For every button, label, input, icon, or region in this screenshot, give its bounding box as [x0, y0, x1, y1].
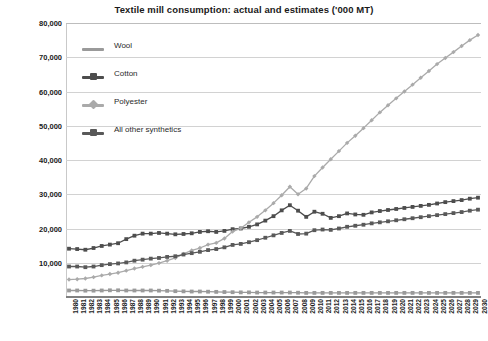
data-point: [190, 251, 194, 255]
legend-item-polyester[interactable]: Polyester: [78, 94, 278, 122]
y-axis-tick-label: 80,000: [2, 19, 62, 28]
data-point: [329, 216, 333, 220]
x-axis-tick-label: 2023: [423, 299, 430, 339]
data-point: [476, 208, 480, 212]
data-point: [173, 232, 177, 236]
x-axis-tick-label: 1999: [227, 299, 234, 339]
x-axis-tick-label: 2026: [448, 299, 455, 339]
data-point: [468, 209, 472, 213]
data-point: [124, 237, 128, 241]
data-point: [272, 214, 276, 218]
data-point: [394, 291, 398, 295]
x-axis-tick-label: 2020: [399, 299, 406, 339]
data-point: [280, 208, 284, 212]
data-point: [247, 225, 251, 229]
legend-item-all-other-synthetics[interactable]: All other synthetics: [78, 122, 278, 150]
data-point: [108, 288, 112, 292]
legend-line-icon: [82, 48, 104, 51]
data-point: [321, 228, 325, 232]
data-point: [223, 290, 227, 294]
legend-item-wool[interactable]: Wool: [78, 38, 278, 66]
x-axis-tick-label: 2001: [243, 299, 250, 339]
data-point: [198, 246, 202, 250]
data-point: [214, 290, 218, 294]
data-point: [345, 225, 349, 229]
data-point: [100, 289, 104, 293]
data-point: [321, 291, 325, 295]
x-axis-tick-label: 2016: [366, 299, 373, 339]
x-axis-tick-label: 2009: [309, 299, 316, 339]
data-point: [157, 261, 161, 265]
data-point: [402, 291, 406, 295]
data-point: [476, 291, 480, 295]
data-point: [288, 203, 292, 207]
data-point: [337, 291, 341, 295]
data-point: [452, 211, 456, 215]
legend-item-cotton[interactable]: Cotton: [78, 66, 278, 94]
data-point: [231, 243, 235, 247]
x-axis-tick-label: 1990: [153, 299, 160, 339]
x-axis-tick-label: 2011: [325, 299, 332, 339]
x-axis-tick-label: 1987: [129, 299, 136, 339]
data-point: [288, 229, 292, 233]
x-axis-tick-label: 2025: [440, 299, 447, 339]
data-point: [206, 248, 210, 252]
data-point: [386, 291, 390, 295]
x-axis-tick-label: 1983: [96, 299, 103, 339]
data-point: [92, 265, 96, 269]
data-point: [378, 220, 382, 224]
data-point: [353, 224, 357, 228]
data-point: [141, 258, 145, 262]
data-point: [198, 290, 202, 294]
x-axis-tick-label: 2015: [358, 299, 365, 339]
data-point: [206, 290, 210, 294]
y-axis-tick-label: 30,000: [2, 190, 62, 199]
data-point: [149, 263, 153, 267]
data-point: [280, 231, 284, 235]
data-point: [190, 231, 194, 235]
data-point: [231, 290, 235, 294]
data-point: [394, 207, 398, 211]
data-point: [419, 215, 423, 219]
data-point: [165, 232, 169, 236]
data-point: [386, 219, 390, 223]
data-point: [239, 290, 243, 294]
data-point: [140, 265, 144, 269]
data-point: [116, 241, 120, 245]
data-point: [108, 262, 112, 266]
y-axis-tick-label: 20,000: [2, 224, 62, 233]
data-point: [460, 210, 464, 214]
data-point: [198, 230, 202, 234]
data-point: [182, 289, 186, 293]
data-point: [427, 291, 431, 295]
data-point: [141, 232, 145, 236]
data-point: [263, 236, 267, 240]
data-point: [255, 238, 259, 242]
data-point: [329, 291, 333, 295]
data-point: [313, 228, 317, 232]
data-point: [165, 258, 169, 262]
data-point: [182, 253, 186, 257]
legend-item-label: Polyester: [114, 97, 147, 106]
x-axis-tick-label: 1996: [202, 299, 209, 339]
y-axis-labels: 80,00070,00060,00050,00040,00030,00020,0…: [0, 23, 62, 297]
data-point: [83, 265, 87, 269]
y-axis-tick-label: 70,000: [2, 53, 62, 62]
data-point: [296, 232, 300, 236]
data-point: [173, 254, 177, 258]
x-axis-tick-label: 2000: [235, 299, 242, 339]
data-point: [67, 265, 71, 269]
x-axis-tick-label: 2017: [374, 299, 381, 339]
x-axis-tick-label: 1982: [88, 299, 95, 339]
x-axis-tick-label: 2007: [292, 299, 299, 339]
data-point: [75, 247, 79, 251]
data-point: [362, 223, 366, 227]
x-axis-labels: 1980198119821983198419851986198719881989…: [66, 299, 481, 341]
chart-legend: WoolCottonPolyesterAll other synthetics: [78, 38, 278, 150]
data-point: [149, 289, 153, 293]
data-point: [304, 215, 308, 219]
data-point: [223, 245, 227, 249]
data-point: [67, 289, 71, 293]
data-point: [452, 291, 456, 295]
data-point: [75, 265, 79, 269]
